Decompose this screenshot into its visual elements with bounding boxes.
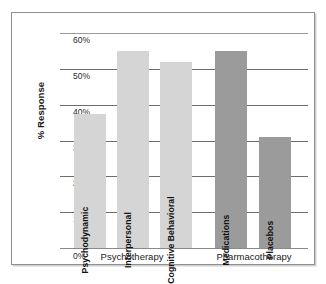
chart-frame: % Response 60% 50% 40% 30% 20% 10% Psych…	[11, 12, 315, 265]
bar-psychodynamic[interactable]: Psychodynamic	[74, 114, 106, 248]
plot-area: 60% 50% 40% 30% 20% 10% Psychodynamic In…	[60, 33, 308, 248]
bar-interpersonal[interactable]: Interpersonal	[117, 51, 149, 248]
y-axis-title: % Response	[35, 66, 46, 156]
group-label-pharmacotherapy: Pharmacotherapy	[200, 251, 308, 262]
bar-placebos[interactable]: Placebos	[259, 137, 291, 248]
bars-layer: Psychodynamic Interpersonal Cognitive Be…	[60, 33, 308, 248]
group-label-psychotherapy: Psychotherapy	[66, 251, 198, 262]
group-label-row: Psychotherapy Pharmacotherapy	[60, 251, 308, 267]
bar-label-cognitive-behavioral: Cognitive Behavioral	[166, 196, 176, 283]
bar-cognitive-behavioral[interactable]: Cognitive Behavioral	[160, 62, 192, 248]
bar-medications[interactable]: Medications	[215, 51, 247, 248]
